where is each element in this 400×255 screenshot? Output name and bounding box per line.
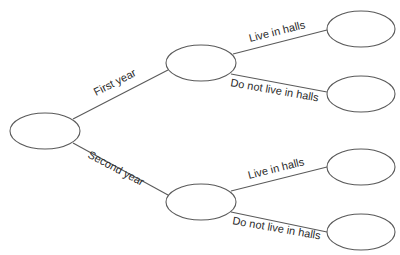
node-root bbox=[10, 113, 80, 149]
node-first-year bbox=[166, 45, 236, 81]
node-first-year-not-halls bbox=[327, 76, 395, 112]
node-first-year-halls bbox=[327, 11, 395, 47]
node-second-year-halls bbox=[327, 149, 395, 185]
label-second-year-halls: Live in halls bbox=[247, 155, 306, 181]
tree-diagram: First year Second year Live in halls Do … bbox=[0, 0, 400, 255]
label-first-year-halls: Live in halls bbox=[248, 18, 307, 44]
label-first-year-not-halls: Do not live in halls bbox=[230, 76, 320, 103]
label-second-year-not-halls: Do not live in halls bbox=[232, 214, 322, 241]
node-second-year-not-halls bbox=[327, 214, 395, 250]
label-second-year: Second year bbox=[86, 148, 146, 188]
node-second-year bbox=[166, 184, 236, 220]
label-first-year: First year bbox=[91, 66, 138, 98]
